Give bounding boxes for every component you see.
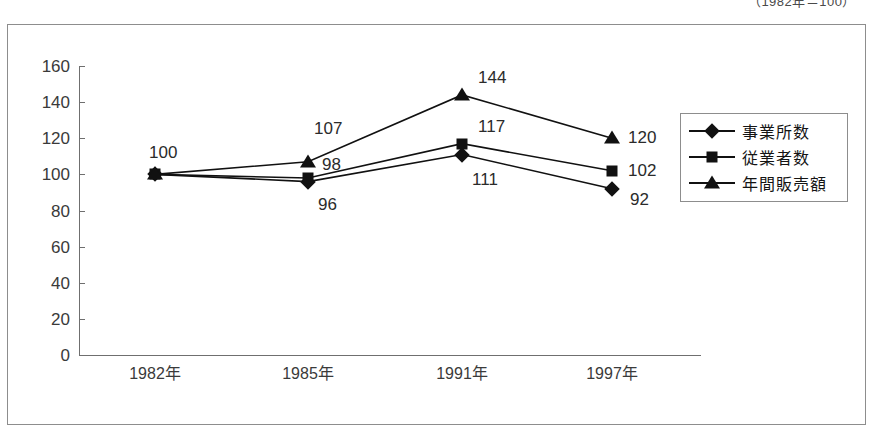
y-axis-tick-label: 40 [14,275,70,292]
triangle-marker-icon [454,87,470,100]
data-point-value-label: 107 [314,120,342,137]
y-axis-tick-label: 80 [14,203,70,220]
y-axis-tick-label: 140 [14,94,70,111]
y-axis-tick [79,66,85,67]
y-axis-tick [79,319,85,320]
square-marker-icon [457,138,468,149]
data-point-value-label: 111 [472,171,498,188]
square-marker-icon [607,165,618,176]
chart-figure: （1982年＝100） 020406080100120140160 1982年1… [0,0,872,437]
y-axis-tick-label: 160 [14,58,70,75]
square-marker-icon [303,172,314,183]
legend-label: 事業所数 [742,119,810,143]
square-marker-icon [689,149,735,165]
y-axis-tick-label: 20 [14,311,70,328]
data-point-value-label: 98 [322,156,341,173]
legend-label: 従業者数 [742,145,810,169]
legend-item-employees[interactable]: 従業者数 [689,144,810,170]
index-base-caption: （1982年＝100） [748,0,856,10]
y-axis-tick-label: 0 [14,347,70,364]
data-point-value-label: 102 [628,162,656,179]
diamond-marker-icon [689,123,735,139]
legend-item-annual-sales[interactable]: 年間販売額 [689,170,827,196]
x-axis-tick-label: 1982年 [95,366,215,382]
chart-legend: 事業所数 従業者数 年間販売額 [680,113,848,202]
data-point-value-label: 117 [478,118,505,135]
data-point-value-label: 144 [478,69,506,86]
data-point-value-label: 92 [630,191,649,208]
y-axis-tick [79,247,85,248]
data-point-value-label: 96 [318,196,337,213]
triangle-marker-icon [689,175,735,191]
data-point-value-label: 120 [628,129,656,146]
y-axis-tick [79,283,85,284]
triangle-marker-icon [147,167,163,180]
x-axis-tick-label: 1985年 [248,366,368,382]
legend-item-establishments[interactable]: 事業所数 [689,118,810,144]
x-axis-line [79,355,701,356]
x-axis-tick-label: 1997年 [552,366,672,382]
y-axis-tick [79,355,85,356]
triangle-marker-icon [604,131,620,144]
y-axis-tick [79,138,85,139]
x-axis-tick-label: 1991年 [402,366,522,382]
y-axis-tick [79,174,85,175]
y-axis-tick [79,102,85,103]
y-axis-tick-label: 100 [14,166,70,183]
y-axis-tick [79,211,85,212]
y-axis-tick-label: 60 [14,239,70,256]
legend-label: 年間販売額 [742,171,827,195]
data-point-value-label: 100 [149,144,177,161]
triangle-marker-icon [300,154,316,167]
y-axis-tick-label: 120 [14,130,70,147]
